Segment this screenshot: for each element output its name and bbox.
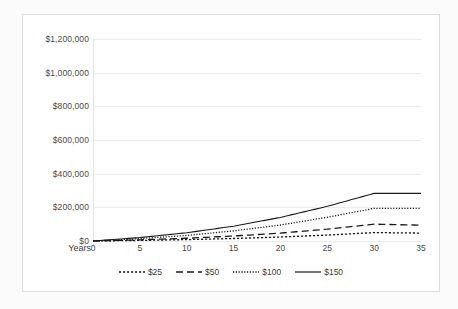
x-axis-tick-label: 5	[137, 243, 142, 253]
legend-swatch-long-dashed-icon	[176, 268, 202, 276]
legend-swatch-solid-icon	[295, 268, 321, 276]
series-lines	[93, 39, 421, 241]
legend-item[interactable]: $100	[233, 267, 281, 277]
legend-item[interactable]: $25	[119, 267, 162, 277]
y-axis-tick-label: $400,000	[53, 169, 89, 179]
series-line	[93, 193, 421, 241]
chart-legend: $25$50$100$150	[23, 267, 439, 277]
y-axis-tick-label: $1,000,000	[45, 68, 89, 78]
x-axis-tick-label: 15	[229, 243, 238, 253]
legend-label: $150	[324, 267, 343, 277]
y-axis-tick-label: $800,000	[53, 101, 89, 111]
y-axis-tick-label: $200,000	[53, 202, 89, 212]
chart-frame: $0$200,000$400,000$600,000$800,000$1,000…	[22, 14, 440, 292]
y-axis-tick-label: $1,200,000	[45, 34, 89, 44]
legend-label: $25	[148, 267, 162, 277]
series-line	[93, 224, 421, 241]
x-axis-tick-label: 20	[276, 243, 285, 253]
x-axis-tick-label: 25	[323, 243, 332, 253]
gridline	[93, 241, 421, 242]
y-axis-tick-label: $600,000	[53, 135, 89, 145]
chart-plot-wrapper: $0$200,000$400,000$600,000$800,000$1,000…	[23, 15, 439, 291]
x-axis-tick-label: 0	[91, 243, 96, 253]
legend-swatch-dotted-icon	[233, 268, 259, 276]
x-axis-title: Years	[39, 243, 91, 253]
legend-item[interactable]: $50	[176, 267, 219, 277]
x-axis-tick-label: 30	[369, 243, 378, 253]
legend-item[interactable]: $150	[295, 267, 343, 277]
legend-label: $50	[205, 267, 219, 277]
x-axis-tick-label: 10	[182, 243, 191, 253]
legend-label: $100	[262, 267, 281, 277]
legend-swatch-fine-dashed-icon	[119, 268, 145, 276]
plot-area	[93, 39, 421, 241]
x-axis-tick-label: 35	[416, 243, 425, 253]
x-axis-tick-labels: 05101520253035	[93, 243, 421, 259]
